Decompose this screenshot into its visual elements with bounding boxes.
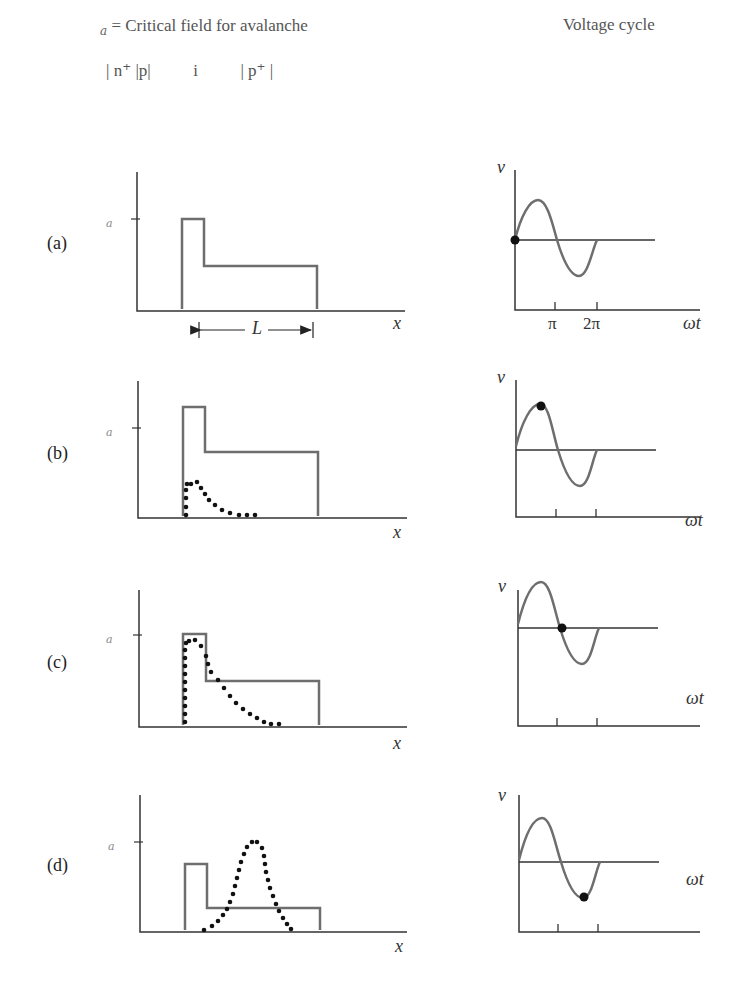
voltage-sine — [519, 818, 600, 898]
field-axes — [137, 172, 405, 311]
voltage-axes — [518, 590, 700, 726]
field-plot-b — [132, 381, 407, 518]
field-axes — [138, 381, 407, 518]
field-axes — [140, 795, 407, 932]
voltage-sine — [515, 200, 597, 276]
voltage-plot-d — [519, 795, 700, 932]
field-axes — [139, 590, 407, 727]
field-plot-c — [133, 590, 407, 727]
diagram-canvas — [0, 0, 739, 1002]
phase-dot — [558, 624, 567, 633]
carrier-pulse-dots — [202, 840, 294, 933]
phase-dot — [580, 893, 589, 902]
voltage-sine — [516, 404, 597, 486]
phase-dot — [537, 402, 546, 411]
phase-dot — [511, 236, 520, 245]
voltage-axes — [516, 380, 700, 517]
field-plot-d — [134, 795, 407, 932]
field-profile — [182, 219, 317, 309]
voltage-plot-c — [518, 582, 700, 726]
voltage-axes — [519, 795, 700, 932]
carrier-pulse-dots — [184, 480, 258, 518]
voltage-plot-a — [511, 170, 701, 310]
voltage-plot-b — [516, 380, 700, 517]
field-plot-a — [131, 172, 405, 338]
field-profile — [183, 407, 318, 516]
field-profile — [183, 634, 319, 725]
voltage-sine — [518, 582, 599, 664]
field-profile — [185, 864, 320, 930]
